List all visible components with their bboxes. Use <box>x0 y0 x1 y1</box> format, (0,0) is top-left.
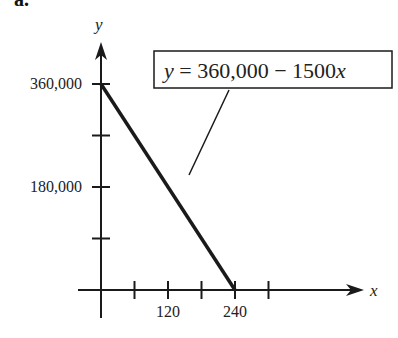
y-tick-label: 360,000 <box>30 75 82 92</box>
x-tick-label: 240 <box>223 303 247 320</box>
x-tick-label: 120 <box>156 303 180 320</box>
series-line <box>101 84 235 290</box>
x-axis-label: x <box>369 281 378 300</box>
leader-line <box>189 90 229 175</box>
y-tick-label: 180,000 <box>30 178 82 195</box>
y-axis-label: y <box>93 15 103 34</box>
equation-label: y = 360,000 − 1500x <box>162 58 346 83</box>
chart: 120240180,000360,000 xy y = 360,000 − 15… <box>0 0 398 338</box>
